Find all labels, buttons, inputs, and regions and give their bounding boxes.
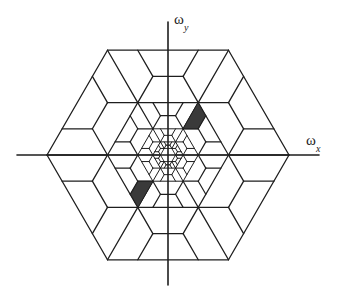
subdivision-line (149, 168, 153, 175)
subdivision-line (183, 148, 187, 155)
subdivision-line (172, 175, 176, 182)
x-axis-label-subscript: x (316, 143, 320, 154)
frequency-axes (17, 22, 319, 285)
subdivision-line (130, 142, 138, 155)
subdivision-line (172, 168, 176, 175)
spoke (198, 50, 228, 102)
subdivision-line (229, 76, 244, 102)
subdivision-line (198, 142, 206, 155)
subdivision-line (183, 142, 187, 149)
subdivision-line (176, 162, 178, 165)
x-axis-label-omega: ω (306, 132, 316, 148)
spoke (153, 168, 161, 181)
subdivision-line (153, 116, 161, 129)
y-axis-label: ωy (174, 12, 188, 30)
subdivision-line (176, 181, 184, 194)
subdivision-line (138, 50, 153, 76)
x-axis-label: ωx (306, 133, 320, 151)
subdivision-line (92, 76, 107, 102)
subdivision-line (176, 145, 178, 148)
subdivision-line (149, 162, 153, 169)
subdivision-line (159, 162, 161, 165)
subdivision-line (130, 129, 138, 142)
subdivision-line (183, 50, 198, 76)
subdivision-line (183, 135, 187, 142)
y-axis-label-subscript: y (184, 22, 188, 33)
subdivision-line (153, 181, 161, 194)
subdivision-line (149, 148, 153, 155)
spoke (160, 142, 164, 149)
subdivision-line (160, 168, 164, 175)
center-hex-edge (160, 155, 164, 162)
subdivision-line (130, 116, 138, 129)
spoke (138, 103, 153, 129)
subdivision-line (229, 155, 244, 181)
subdivision-line (160, 135, 164, 142)
center-hex-edge (172, 148, 176, 155)
subdivision-line (92, 129, 107, 155)
subdivision-line (198, 181, 206, 194)
subdivision-line (183, 76, 198, 102)
hexagonal-tiling-diagram (0, 0, 339, 300)
subdivision-line (149, 155, 153, 162)
subdivision-line (159, 145, 161, 148)
subdivision-line (176, 116, 184, 129)
subdivision-line (229, 103, 244, 129)
subdivision-line (92, 103, 107, 129)
spoke (153, 129, 161, 142)
subdivision-line (183, 234, 198, 260)
subdivision-line (170, 145, 172, 148)
subdivision-line (130, 168, 138, 181)
subdivision-line (198, 168, 206, 181)
spoke (172, 142, 176, 149)
subdivision-line (138, 234, 153, 260)
subdivision-line (159, 148, 161, 151)
spoke (176, 168, 184, 181)
y-axis-label-omega: ω (174, 11, 184, 27)
subdivision-line (229, 181, 244, 207)
spoke (160, 162, 164, 169)
subdivision-line (176, 194, 184, 207)
subdivision-line (130, 155, 138, 168)
subdivision-line (176, 158, 178, 161)
spoke (108, 207, 138, 259)
subdivision-line (160, 175, 164, 182)
center-hex-edge (172, 155, 176, 162)
subdivision-line (183, 168, 187, 175)
subdivision-line (149, 135, 153, 142)
subdivision-line (176, 148, 178, 151)
subdivision-line (153, 103, 161, 116)
subdivision-line (229, 207, 244, 233)
subdivision-line (92, 181, 107, 207)
subdivision-line (183, 162, 187, 169)
subdivision-line (159, 158, 161, 161)
subdivision-line (229, 129, 244, 155)
spoke (198, 207, 228, 259)
subdivision-line (160, 129, 164, 136)
subdivision-line (198, 129, 206, 142)
subdivision-line (153, 194, 161, 207)
subdivision-line (183, 155, 187, 162)
subdivision-line (92, 155, 107, 181)
spoke (172, 162, 176, 169)
center-hex-edge (160, 148, 164, 155)
subdivision-line (138, 207, 153, 233)
subdivision-line (176, 103, 184, 116)
subdivision-line (138, 76, 153, 102)
subdivision-line (183, 207, 198, 233)
subdivision-line (172, 129, 176, 136)
spoke (108, 50, 138, 102)
subdivision-line (149, 142, 153, 149)
subdivision-line (198, 155, 206, 168)
subdivision-line (92, 207, 107, 233)
lower-left-cell (131, 181, 154, 207)
subdivision-line (164, 162, 166, 165)
subdivision-line (172, 135, 176, 142)
spoke (183, 181, 198, 207)
spoke (176, 129, 184, 142)
upper-right-cell (183, 103, 206, 129)
